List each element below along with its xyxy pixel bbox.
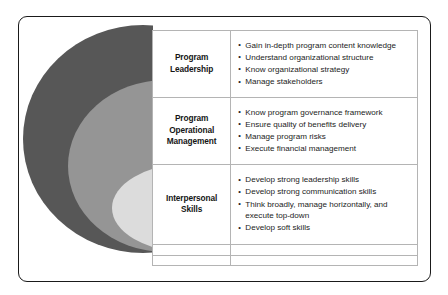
row-label-line: Management [156, 136, 227, 148]
list-item: Execute financial management [238, 143, 413, 155]
list-item: Develop soft skills [238, 222, 413, 234]
row-label-program-leadership: Program Leadership [153, 31, 231, 98]
blank-cell-label [153, 256, 231, 266]
row-label-line: Program [156, 113, 227, 125]
list-item: Understand organizational structure [238, 52, 413, 64]
table-row: Program Operational Management Know prog… [153, 97, 418, 164]
list-item: Manage program risks [238, 131, 413, 143]
row-label-line: Leadership [156, 64, 227, 76]
competency-matrix-table: Program Leadership Gain in-depth program… [152, 30, 418, 266]
list-item: Know program governance framework [238, 107, 413, 119]
table-row: Interpersonal Skills Develop strong lead… [153, 164, 418, 244]
row-label-line: Operational [156, 125, 227, 137]
blank-cell-items [231, 256, 418, 266]
bullet-list: Know program governance framework Ensure… [238, 107, 413, 155]
list-item: Ensure quality of benefits delivery [238, 119, 413, 131]
list-item: Develop strong communication skills [238, 186, 413, 198]
row-label-program-operational-management: Program Operational Management [153, 97, 231, 164]
table-row-blank [153, 245, 418, 256]
table-row: Program Leadership Gain in-depth program… [153, 31, 418, 98]
bullet-list: Develop strong leadership skills Develop… [238, 174, 413, 233]
row-label-line: Skills [156, 204, 227, 216]
list-item: Gain in-depth program content knowledge [238, 40, 413, 52]
blank-cell-items [231, 245, 418, 256]
table-row-blank [153, 256, 418, 266]
blank-cell-label [153, 245, 231, 256]
bullet-list: Gain in-depth program content knowledge … [238, 40, 413, 88]
concentric-ellipse-diagram [20, 18, 153, 264]
row-items-program-leadership: Gain in-depth program content knowledge … [231, 31, 418, 98]
row-label-line: Interpersonal [156, 193, 227, 205]
row-label-line: Program [156, 52, 227, 64]
list-item: Develop strong leadership skills [238, 174, 413, 186]
list-item: Manage stakeholders [238, 76, 413, 88]
row-items-program-operational-management: Know program governance framework Ensure… [231, 97, 418, 164]
list-item: Think broadly, manage horizontally, and … [238, 199, 413, 222]
row-items-interpersonal-skills: Develop strong leadership skills Develop… [231, 164, 418, 244]
list-item: Know organizational strategy [238, 64, 413, 76]
row-label-interpersonal-skills: Interpersonal Skills [153, 164, 231, 244]
figure-canvas: Program Leadership Gain in-depth program… [0, 0, 448, 295]
